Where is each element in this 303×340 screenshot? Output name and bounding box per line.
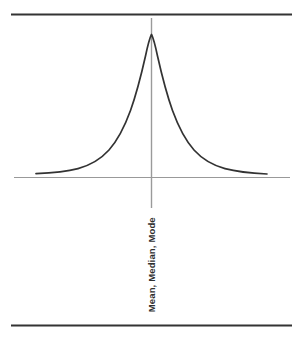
normal-distribution-figure: Mean, Median, Mode — [0, 0, 303, 340]
distribution-chart-canvas — [0, 0, 303, 340]
